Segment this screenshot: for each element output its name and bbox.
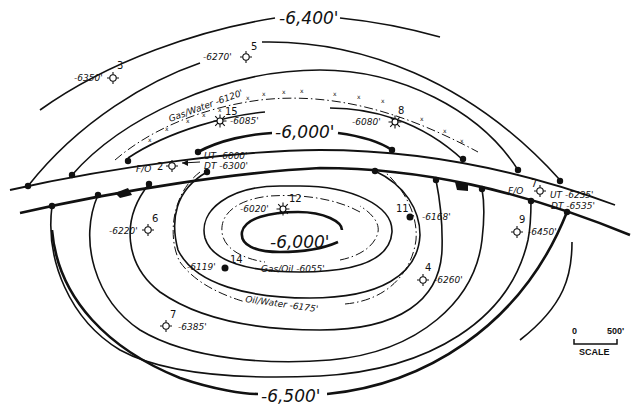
svg-text:14: 14 (230, 254, 243, 265)
contour-6400-east (340, 18, 440, 37)
svg-text:3: 3 (117, 60, 123, 71)
fault-label-fo-east: F/O (508, 186, 523, 196)
svg-text:6: 6 (152, 213, 158, 224)
oil-water-contact-east (345, 172, 416, 304)
label-gas-oil: Gas/Oil -6055' (261, 264, 325, 274)
dry-hole-icon (511, 226, 523, 238)
dry-hole-icon (142, 224, 154, 236)
svg-text:-6220': -6220' (109, 226, 138, 236)
gas-oil-contact-east (340, 206, 378, 260)
svg-text:x: x (246, 94, 250, 101)
svg-text:-6020': -6020' (240, 204, 269, 214)
label-6000-center: -6,000' (270, 232, 329, 252)
dry-hole-icon (240, 51, 252, 63)
svg-text:-6385': -6385' (178, 322, 207, 332)
fault-downthrown-trace (20, 168, 630, 235)
label-6000-top: -6,000' (275, 122, 334, 142)
svg-text:-6270': -6270' (203, 52, 232, 62)
contour-6500-east (327, 212, 567, 394)
scale-bar: 0 500' SCALE (572, 326, 624, 357)
contour-6000-north (198, 133, 272, 152)
svg-text:x: x (443, 127, 447, 134)
svg-text:-6080': -6080' (352, 117, 381, 127)
scale-end: 500' (607, 326, 624, 336)
svg-text:7: 7 (170, 309, 176, 320)
scale-line (574, 339, 617, 344)
svg-text:4: 4 (425, 262, 431, 273)
fault-contour-intersections (25, 147, 570, 215)
label-6400: -6,400' (279, 8, 338, 28)
gas-well-icon (277, 203, 290, 216)
svg-text:-6350': -6350' (74, 73, 103, 83)
svg-text:-6450': -6450' (528, 227, 557, 237)
svg-text:x: x (218, 106, 222, 113)
label-6500: -6,500' (261, 386, 320, 406)
contour-6000-north-east (338, 133, 392, 150)
scale-start: 0 (572, 326, 577, 336)
dry-hole-icon (160, 320, 172, 332)
svg-text:x: x (420, 115, 424, 122)
well-11[interactable]: 11 -6168' (396, 203, 451, 222)
scale-label: SCALE (579, 347, 610, 357)
svg-text:x: x (282, 88, 286, 95)
contour-6500 (52, 230, 258, 394)
contours-south-block (51, 171, 572, 394)
svg-text:11: 11 (396, 203, 409, 214)
svg-text:7: 7 (531, 178, 537, 189)
fault-label-fo-west: F/O (136, 164, 151, 174)
svg-text:9: 9 (519, 214, 525, 225)
fault-labels-east: F/O UT -6235' DT -6535' (508, 186, 595, 211)
svg-text:2: 2 (157, 161, 163, 172)
oil-well-icon (222, 265, 229, 272)
fault-label-dt-west: DT -6300' (204, 161, 248, 171)
well-3[interactable]: 3 -6350' (74, 60, 123, 84)
fault-label-ut-west: UT -6000' (204, 151, 248, 161)
well-14[interactable]: 14 -6119' (187, 254, 243, 272)
fault-dip-marker-west (115, 188, 132, 198)
dry-hole-icon (107, 72, 119, 84)
contour-labels: -6,400' -6,000' -6,000' -6,500' (259, 6, 339, 406)
contours-north-block (28, 18, 560, 186)
svg-text:5: 5 (251, 41, 257, 52)
well-8[interactable]: 8 -6080' (352, 105, 404, 129)
svg-text:x: x (165, 125, 169, 132)
well-5[interactable]: 5 -6270' (203, 41, 257, 63)
svg-text:-6119': -6119' (187, 262, 216, 272)
svg-text:x: x (357, 93, 361, 100)
svg-text:x: x (460, 137, 464, 144)
svg-text:x: x (148, 136, 152, 143)
gas-well-icon (389, 116, 402, 129)
dry-hole-icon (417, 274, 429, 286)
svg-text:x: x (300, 87, 304, 94)
well-9[interactable]: 9 -6450' (511, 214, 557, 238)
svg-text:x: x (381, 97, 385, 104)
svg-text:x: x (262, 90, 266, 97)
structure-contour-map: xx xx xx xx xx xx xx x (0, 0, 640, 410)
oil-well-icon (407, 214, 414, 221)
svg-text:-6085': -6085' (230, 116, 259, 126)
fault-label-dt-east: DT -6535' (551, 201, 595, 211)
svg-text:-6260': -6260' (434, 275, 463, 285)
fault-label-ut-east: UT -6235' (550, 190, 594, 200)
svg-text:x: x (333, 90, 337, 97)
contour-6300-east (262, 42, 560, 180)
svg-text:-6168': -6168' (422, 212, 451, 222)
svg-text:12: 12 (289, 193, 302, 204)
svg-text:8: 8 (398, 105, 404, 116)
well-6[interactable]: 6 -6220' (109, 213, 158, 236)
